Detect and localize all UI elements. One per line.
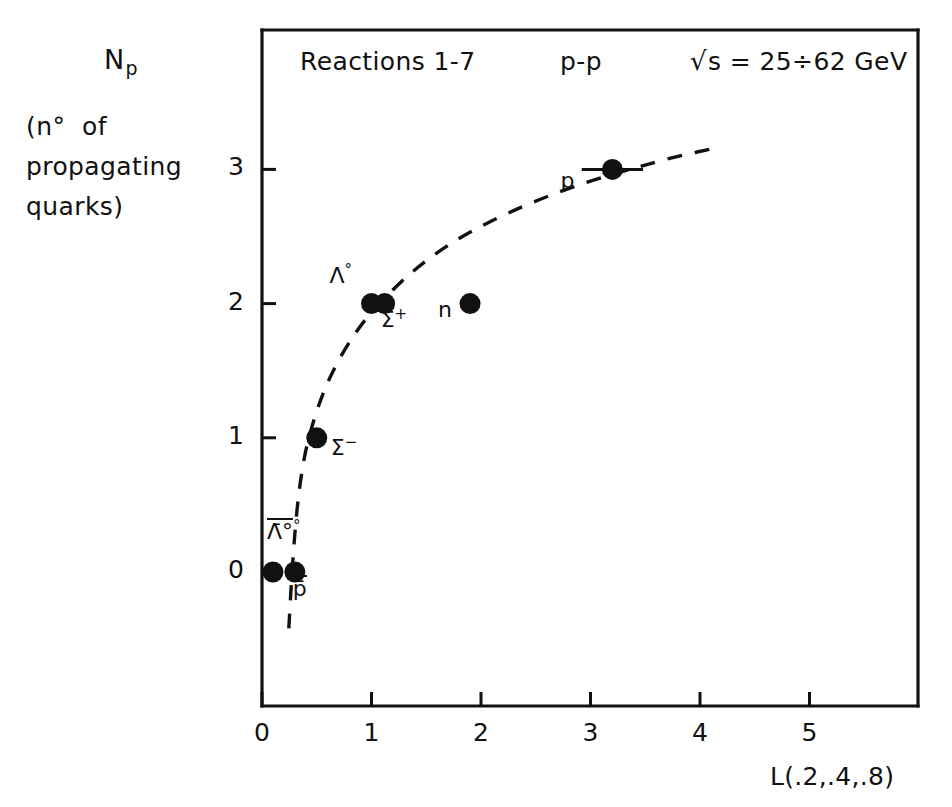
data-point-proton[interactable] (602, 159, 623, 180)
plot-canvas (0, 0, 952, 807)
x-tick-label: 4 (683, 718, 717, 747)
point-label-text: Λ (330, 262, 345, 287)
point-label-Lambda0: Λ° (330, 261, 353, 288)
point-label-text: p (560, 168, 574, 193)
figure-root: Np (n° of propagating quarks) Reactions … (0, 0, 952, 807)
data-point-neutron[interactable] (460, 293, 481, 314)
x-tick-label: 5 (793, 718, 827, 747)
y-tick-label: 2 (210, 287, 244, 316)
data-markers (262, 159, 622, 583)
point-label-Sigma-minus: Σ− (331, 433, 357, 460)
plot-frame (262, 30, 918, 706)
point-label-text: Σ (381, 306, 395, 331)
point-label-text: n (438, 297, 452, 322)
data-point-anti-Lambda0[interactable] (262, 562, 283, 583)
y-tick-label: 1 (210, 421, 244, 450)
point-label-superscript: − (345, 433, 358, 451)
y-tick-label: 3 (210, 152, 244, 181)
x-tick-label: 1 (355, 718, 389, 747)
data-point-Sigma-minus[interactable] (306, 427, 327, 448)
point-label-neutron: n (438, 297, 452, 322)
x-tick-label: 3 (574, 718, 608, 747)
y-tick-label: 0 (210, 555, 244, 584)
point-label-text: Λ̄° (267, 518, 293, 543)
point-label-proton: p (560, 168, 574, 193)
point-label-text: p̄ (293, 575, 307, 600)
point-label-text: Σ (331, 434, 345, 459)
point-label-superscript: + (395, 305, 408, 323)
point-label-Sigma-plus: Σ+ (381, 305, 407, 332)
x-tick-label: 0 (245, 718, 279, 747)
fit-curve-path (289, 148, 717, 629)
point-label-anti-Lambda0: Λ̄°° (267, 517, 301, 544)
point-label-superscript: ° (293, 517, 301, 535)
point-label-anti-p: p̄ (293, 575, 307, 601)
point-label-superscript: ° (345, 261, 353, 279)
x-tick-label: 2 (464, 718, 498, 747)
fit-curve (289, 148, 717, 629)
